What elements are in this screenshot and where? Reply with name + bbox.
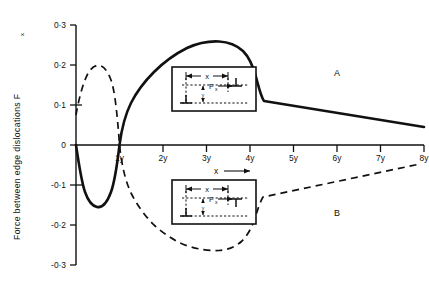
x-tick-label: 7y [376,153,386,163]
inset-diagram-bottom: x y F x [172,180,256,224]
inset-diagram-top: x y F x [172,67,256,111]
y-tick-label: -0·1 [51,180,66,190]
x-tick-label: 5y [289,153,299,163]
inset-bottom-x-label: x [205,185,209,194]
inset-bottom-frame [172,180,256,224]
curve-a-label: A [334,68,340,78]
x-axis-title-text: x [214,166,219,176]
inset-top-force-label: F [209,82,214,91]
x-axis-ticks [120,145,425,152]
x-tick-label: 8y [420,153,429,163]
inset-top-frame [172,67,256,111]
y-tick-label: 0·3 [54,20,66,30]
x-tick-label: 3y [202,153,212,163]
x-tick-label: 4y [246,153,256,163]
y-tick-label: 0·2 [54,60,66,70]
curve-b-label: B [334,208,340,218]
y-tick-label: -0·3 [51,260,66,270]
x-tick-label: 6y [333,153,343,163]
inset-bottom-force-label: F [209,195,214,204]
y-axis-tick-labels: 0·3 0·2 0·1 0 -0·1 -0·2 -0·3 [51,20,66,270]
x-axis-title: x [214,166,250,176]
y-tick-label: 0·1 [54,100,66,110]
chart-svg: Force between edge dislocations F x 0·3 … [0,0,429,281]
y-tick-label: 0 [61,140,66,150]
x-axis-arrow-icon [244,168,250,173]
y-tick-label: -0·2 [51,220,66,230]
figure-container: Force between edge dislocations F x 0·3 … [0,0,429,281]
x-tick-label: 2y [159,153,169,163]
x-axis-tick-labels: 1y 2y 3y 4y 5y 6y 7y 8y [115,153,429,163]
inset-top-x-label: x [205,72,209,81]
y-axis-title-text: Force between edge dislocations F [12,94,22,240]
y-axis-title-subscript: x [19,33,25,36]
y-axis-title: Force between edge dislocations F x [12,33,25,240]
